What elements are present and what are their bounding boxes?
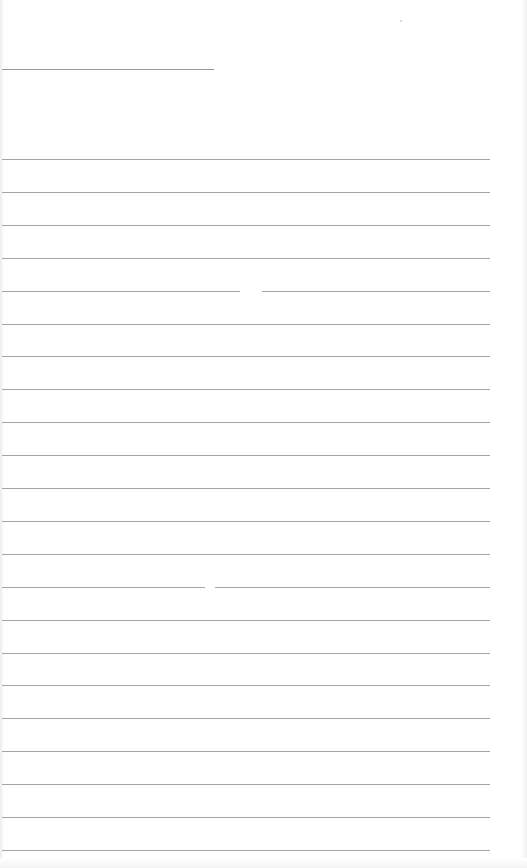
ruled-line: [2, 291, 490, 292]
ruled-line: [2, 159, 490, 160]
page-left-edge-shadow: [0, 0, 4, 868]
line-gap: [205, 586, 215, 589]
page-bottom-edge-shadow: [0, 858, 527, 868]
ruled-line: [2, 356, 490, 357]
ruled-line: [2, 258, 490, 259]
ruled-line: [2, 488, 490, 489]
ruled-line: [2, 455, 490, 456]
ruled-line: [2, 225, 490, 226]
ruled-line: [2, 192, 490, 193]
ruled-line: [2, 324, 490, 325]
ruled-line: [2, 784, 490, 785]
ruled-line: [2, 751, 490, 752]
ruled-line: [2, 653, 490, 654]
line-gap: [240, 290, 262, 293]
ruled-line: [2, 718, 490, 719]
ruled-line: [2, 850, 490, 851]
paper-speck: [400, 20, 402, 22]
notepad-page: [0, 0, 527, 868]
ruled-line: [2, 620, 490, 621]
ruled-line: [2, 521, 490, 522]
ruled-line: [2, 389, 490, 390]
ruled-line: [2, 817, 490, 818]
ruled-line: [2, 554, 490, 555]
ruled-line: [2, 422, 490, 423]
header-title-line: [2, 69, 214, 70]
page-right-edge-shadow: [521, 0, 527, 868]
ruled-line: [2, 587, 490, 588]
ruled-line: [2, 685, 490, 686]
